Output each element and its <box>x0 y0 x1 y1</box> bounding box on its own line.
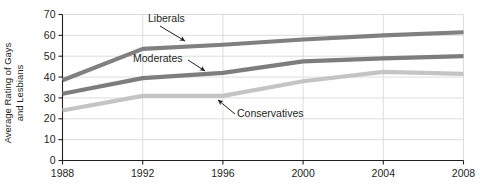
y-axis-title-line2: and Lesbians <box>14 64 25 121</box>
y-axis-tick-label: 20 <box>44 112 56 124</box>
y-axis-title-line1: Average Rating of Gays <box>2 42 13 143</box>
y-axis-tick-label: 0 <box>50 154 56 166</box>
y-axis-tick-label: 50 <box>44 50 56 62</box>
x-axis-tick-label: 2008 <box>452 167 476 179</box>
x-axis-tick-label: 2000 <box>291 167 315 179</box>
x-axis-tick-label: 1988 <box>51 167 75 179</box>
x-axis-tick-label: 2004 <box>372 167 396 179</box>
annotation-label-conservatives: Conservatives <box>237 107 304 119</box>
annotation-label-liberals: Liberals <box>148 12 185 24</box>
chart-container: 010203040506070 198819921996200020042008… <box>0 0 480 186</box>
y-axis-tick-label: 60 <box>44 29 56 41</box>
y-axis-tick-label: 40 <box>44 71 56 83</box>
line-chart: 010203040506070 198819921996200020042008… <box>0 0 480 186</box>
y-axis-tick-label: 10 <box>44 133 56 145</box>
y-axis-tick-label: 30 <box>44 92 56 104</box>
annotation-label-moderates: Moderates <box>133 52 183 64</box>
y-axis-tick-label: 70 <box>44 8 56 20</box>
x-axis-tick-label: 1992 <box>131 167 155 179</box>
x-axis-tick-label: 1996 <box>211 167 235 179</box>
